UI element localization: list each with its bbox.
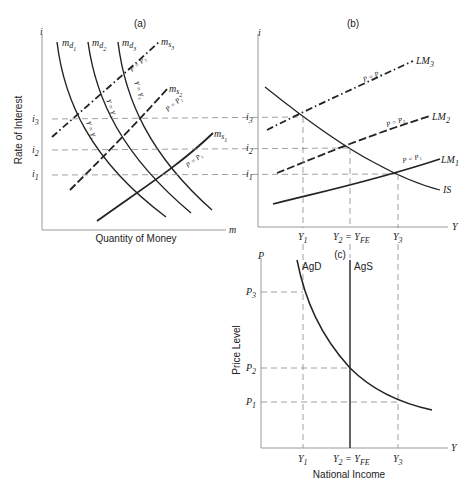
lm3-annotation: P = P₃ — [361, 69, 383, 84]
i1-guide — [52, 174, 398, 175]
lm1-label: LM1 — [440, 154, 459, 168]
panel-c-tick-y3: Y3 — [393, 453, 403, 467]
panel-b-tick-i2: i2 — [246, 142, 253, 156]
i3-guide — [52, 117, 303, 119]
panel-c-title: (c) — [334, 249, 346, 260]
agd-curve — [297, 260, 432, 410]
is-curve — [265, 87, 440, 190]
panel-b-tick-y3: Y3 — [393, 231, 403, 245]
ms3-annotation: P = P₃ — [127, 55, 148, 74]
panel-a-x-label: Quantity of Money — [95, 233, 176, 244]
md1-curve — [57, 42, 166, 217]
panel-a-y-symbol: i — [40, 26, 43, 37]
is-label: IS — [442, 184, 451, 195]
panel-a-title: (a) — [134, 18, 146, 29]
ms1-annotation: P = P₁ — [184, 152, 205, 171]
panel-c-tick-y2: Y2 = YFE — [333, 453, 370, 467]
panel-c-y-label: Price Level — [231, 325, 242, 374]
panel-a-tick-i3: i3 — [32, 113, 39, 127]
panel-c-tick-p1: P1 — [245, 396, 256, 410]
panel-c-tick-p2: P2 — [245, 362, 256, 376]
panel-a-tick-i2: i2 — [32, 144, 39, 158]
panel-b-tick-i1: i1 — [246, 168, 253, 182]
ms3-curve — [52, 41, 160, 137]
panel-c-y-symbol: P — [257, 250, 264, 261]
md2-label: md2 — [92, 37, 106, 52]
ms3-label: ms3 — [161, 36, 174, 51]
md1-label: md1 — [62, 37, 76, 52]
ags-label: AgS — [354, 261, 373, 272]
panel-b-tick-y2: Y2 = YFE — [333, 231, 370, 245]
ms1-label: ms1 — [214, 128, 227, 143]
ms2-label: ms2 — [169, 83, 182, 98]
panel-a-tick-i1: i1 — [32, 168, 39, 182]
md3-annotation: Y = Y₃ — [132, 80, 145, 101]
panel-a: (a) i m Rate of Interest Quantity of Mon… — [13, 18, 236, 244]
lm2-label: LM2 — [431, 111, 450, 125]
panel-c: (c) P Y Price Level National Income P3 P… — [231, 249, 458, 480]
panel-b-y-symbol: i — [258, 27, 261, 38]
panel-b-title: (b) — [347, 18, 359, 29]
md2-annotation: Y = Y₂ — [104, 98, 117, 119]
panel-b-tick-y1: Y1 — [298, 231, 308, 245]
panel-b-x-symbol: Y — [452, 221, 459, 232]
panel-a-y-label: Rate of Interest — [13, 96, 24, 165]
price-guides — [261, 292, 398, 402]
panel-c-tick-y1: Y1 — [298, 453, 308, 467]
panel-b-tick-i3: i3 — [246, 111, 253, 125]
lm3-label: LM3 — [415, 55, 434, 69]
is-lm-ad-as-diagram: (a) i m Rate of Interest Quantity of Mon… — [0, 0, 470, 488]
agd-label: AgD — [302, 261, 321, 272]
panel-c-x-label: National Income — [313, 469, 386, 480]
lm1-annotation: P = P₁ — [401, 153, 422, 166]
panel-b: (b) i Y i3 i2 i1 Y1 Y2 = YFE Y3 IS LM3 L… — [246, 18, 459, 245]
lm2-curve — [277, 116, 430, 173]
panel-a-x-symbol: m — [229, 224, 236, 235]
md3-label: md3 — [122, 37, 136, 52]
panel-c-tick-p3: P3 — [245, 286, 256, 300]
panel-c-x-symbol: Y — [451, 442, 458, 453]
